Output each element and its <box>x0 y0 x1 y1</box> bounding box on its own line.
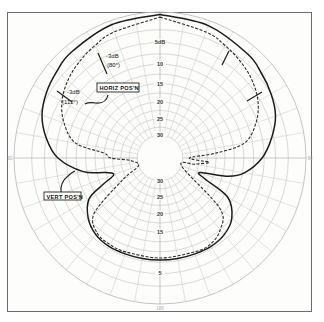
scale-label-top: 20 <box>157 99 163 105</box>
vert-callout-label: VERT POS'N <box>47 194 84 200</box>
vert-3db-label: -3dB <box>67 89 80 95</box>
horiz-3db-angle: (80°) <box>107 62 120 68</box>
horiz-callout-label: HORIZ POS'N <box>100 85 139 91</box>
angle-label: 180 <box>156 306 164 311</box>
angle-label: 90 <box>7 156 13 161</box>
angle-label: 90 <box>307 156 313 161</box>
scale-label-top: 10 <box>157 61 163 67</box>
horiz-3db-label: -3dB <box>106 53 119 59</box>
scale-label-bottom: 30 <box>157 178 163 184</box>
scale-label-bottom: 20 <box>157 211 163 217</box>
polar-grid: 9090180 <box>7 12 313 311</box>
scale-label-bottom: 15 <box>157 229 163 235</box>
scale-label-top: 25 <box>157 116 163 122</box>
grid-ring <box>137 135 183 181</box>
vert-3db-angle: (112°) <box>62 99 78 105</box>
scale-label-top: 15 <box>157 81 163 87</box>
scale-label-top: 5dB <box>155 39 165 45</box>
polar-plot: 9090180 5dB1015202530302520155 -3dB (80°… <box>0 0 324 322</box>
horiz-leader-line <box>85 95 108 104</box>
vert-3db-marker: -3dB (112°) <box>57 89 80 105</box>
scale-label-top: 30 <box>157 132 163 138</box>
scale-label-bottom: 25 <box>157 194 163 200</box>
scale-label-bottom: 5 <box>158 270 161 276</box>
vert-callout: VERT POS'N <box>44 171 83 200</box>
